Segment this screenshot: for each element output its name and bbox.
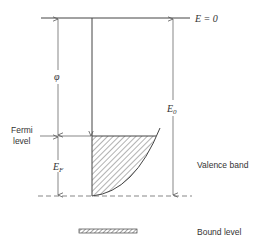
- work-function-label: φ: [54, 71, 60, 82]
- fermi-level-label-line1: Fermi: [11, 125, 33, 135]
- energy-diagram: E = 0 Fermi level φ EF E0 Valence band B…: [0, 0, 259, 248]
- bound-level-label: Bound level: [197, 227, 242, 237]
- filled-states-region: [92, 136, 156, 196]
- valence-band-label: Valence band: [197, 160, 249, 170]
- bound-level-bar: [79, 229, 137, 233]
- fermi-level-label-line2: level: [13, 136, 31, 146]
- well-depth-label: E0: [166, 103, 177, 116]
- vacuum-level-label: E = 0: [194, 13, 218, 24]
